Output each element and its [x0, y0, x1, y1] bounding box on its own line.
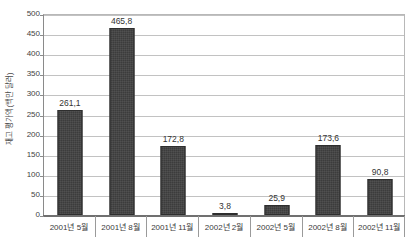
x-axis-category-label: 2001년 11월	[146, 216, 198, 239]
y-axis-tick-label: 400	[14, 50, 40, 58]
x-axis-category-labels: 2001년 5월2001년 8월2001년 11월2002년 2월2002년 5…	[43, 215, 405, 239]
x-axis-category-label: 2002년 11월	[353, 216, 405, 239]
y-axis-title-text: 재고 평가액(백만 달러)	[3, 72, 14, 144]
bar-slot: 3,8	[199, 15, 251, 215]
bar[interactable]	[161, 146, 186, 215]
y-axis-tick-label: 50	[14, 191, 40, 199]
x-axis-category-label: 2002년 8월	[302, 216, 354, 239]
bar-slot: 90,8	[354, 15, 406, 215]
y-axis-tick-label: 200	[14, 131, 40, 139]
x-axis-category-label: 2002년 5월	[250, 216, 302, 239]
bar[interactable]	[57, 110, 82, 215]
bar-chart: 재고 평가액(백만 달러) 50045040035030025020015010…	[0, 0, 416, 241]
x-axis-category-label: 2001년 5월	[43, 216, 95, 239]
y-axis-tick-label: 500	[14, 10, 40, 18]
bar-slot: 465,8	[96, 15, 148, 215]
bar[interactable]	[316, 145, 341, 215]
bar-value-label: 25,9	[268, 194, 285, 203]
bar-slot: 172,8	[147, 15, 199, 215]
bar-slot: 25,9	[251, 15, 303, 215]
bar[interactable]	[368, 179, 393, 216]
y-axis-tick-label-zero: 0	[14, 211, 40, 219]
bar[interactable]	[264, 205, 289, 215]
bar-value-label: 173,6	[318, 134, 339, 143]
bar-value-label: 3,8	[219, 202, 231, 211]
y-axis-tick-label: 150	[14, 151, 40, 159]
y-axis-tick-labels: 50045040035030025020015010050	[14, 0, 40, 216]
y-axis-tick-label: 250	[14, 111, 40, 119]
y-axis-tick-label: 450	[14, 30, 40, 38]
bar-value-label: 465,8	[111, 17, 132, 26]
y-axis-tick-label: 100	[14, 171, 40, 179]
y-axis-tick-label: 300	[14, 90, 40, 98]
bar-value-label: 172,8	[163, 135, 184, 144]
bar-value-label: 90,8	[372, 168, 389, 177]
plot-area: 261,1465,8172,83,825,9173,690,8	[43, 14, 405, 215]
bar-slot: 261,1	[44, 15, 96, 215]
bar-value-label: 261,1	[59, 99, 80, 108]
bar-slot: 173,6	[303, 15, 355, 215]
bars-layer: 261,1465,8172,83,825,9173,690,8	[44, 15, 404, 215]
x-axis-category-label: 2002년 2월	[198, 216, 250, 239]
x-axis-category-label: 2001년 8월	[95, 216, 147, 239]
y-axis-tick-label: 350	[14, 70, 40, 78]
bar[interactable]	[109, 28, 134, 215]
